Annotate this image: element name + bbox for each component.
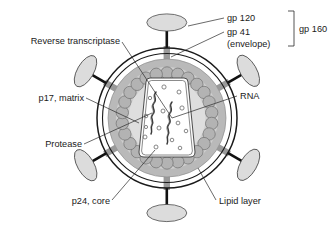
label-rna: RNA xyxy=(240,91,260,101)
label-gp160: gp 160 xyxy=(299,24,327,34)
p24-capsid-bead xyxy=(161,67,173,79)
label-envelope: (envelope) xyxy=(227,39,270,49)
gp120-head-icon xyxy=(232,52,264,91)
label-gp41: gp 41 xyxy=(227,27,250,37)
label-protease: Protease xyxy=(45,139,82,149)
leader-lipid-layer xyxy=(198,168,216,200)
gp120-head-icon xyxy=(147,14,187,31)
gp120-head-icon xyxy=(70,146,102,185)
leader-gp41 xyxy=(171,32,224,57)
p24-capsid-bead xyxy=(161,157,173,169)
gp160-bracket xyxy=(288,11,294,46)
hiv-virion-diagram: gp 120 gp 41 (envelope) gp 160 Reverse t… xyxy=(0,0,336,233)
virion-illustration: gp 120 gp 41 (envelope) gp 160 Reverse t… xyxy=(0,0,336,233)
label-p17-matrix: p17, matrix xyxy=(39,93,85,103)
gp120-head-icon xyxy=(233,146,265,185)
label-lipid-layer: Lipid layer xyxy=(219,196,261,206)
gp120-head-icon xyxy=(147,204,187,221)
label-p24-core: p24, core xyxy=(72,196,110,206)
label-reverse-transcriptase: Reverse transcriptase xyxy=(31,36,120,46)
label-gp120: gp 120 xyxy=(227,13,255,23)
leader-gp120 xyxy=(188,18,224,26)
gp120-head-icon xyxy=(70,52,102,91)
